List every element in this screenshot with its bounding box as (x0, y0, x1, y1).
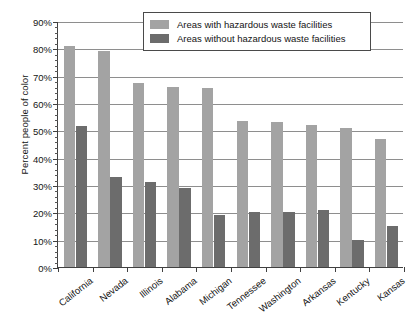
bar (76, 126, 88, 267)
bar (133, 83, 145, 268)
x-axis-label: Arkansas (299, 275, 337, 308)
y-tick-label: 20% (33, 208, 52, 219)
bar (64, 46, 76, 267)
x-tick-mark (404, 267, 405, 272)
bar (283, 212, 295, 267)
bar (145, 182, 157, 267)
bar (352, 240, 364, 267)
x-axis-label: Kansas (375, 275, 407, 303)
bar-chart: Percent people of color 0%10%20%30%40%50… (0, 0, 411, 328)
y-tick-label: 0% (38, 263, 52, 274)
bar (249, 212, 261, 267)
x-axis-label: Nevada (97, 275, 130, 304)
bar (306, 125, 318, 267)
chart-legend: Areas with hazardous waste facilities Ar… (143, 12, 371, 51)
legend-swatch-without-facilities (150, 34, 169, 43)
y-tick-label: 40% (33, 153, 52, 164)
bar (375, 139, 387, 267)
x-tick-mark (231, 267, 232, 272)
plot-area: 0%10%20%30%40%50%60%70%80%90% California… (57, 22, 403, 268)
x-tick-mark (266, 267, 267, 272)
bar (98, 51, 110, 267)
y-axis-title: Percent people of color (19, 50, 30, 200)
legend-label-with-facilities: Areas with hazardous waste facilities (177, 19, 332, 30)
y-tick-label: 10% (33, 235, 52, 246)
bar (167, 87, 179, 267)
x-tick-mark (127, 267, 128, 272)
bar (387, 226, 399, 267)
x-tick-mark (58, 267, 59, 272)
y-tick-label: 60% (33, 99, 52, 110)
legend-item: Areas without hazardous waste facilities (150, 31, 364, 45)
x-tick-mark (335, 267, 336, 272)
x-axis-label: Illinois (137, 275, 165, 300)
bar (340, 128, 352, 267)
y-tick-label: 90% (33, 17, 52, 28)
legend-item: Areas with hazardous waste facilities (150, 17, 364, 31)
bar (318, 210, 330, 267)
bar (237, 121, 249, 267)
x-tick-mark (196, 267, 197, 272)
x-tick-mark (162, 267, 163, 272)
x-tick-mark (300, 267, 301, 272)
bar (271, 122, 283, 267)
x-axis-label: Alabama (163, 275, 199, 307)
y-tick-label: 80% (33, 44, 52, 55)
bars-layer (58, 22, 403, 267)
bar (110, 177, 122, 267)
x-axis-label: California (57, 275, 95, 308)
legend-label-without-facilities: Areas without hazardous waste facilities (177, 33, 345, 44)
bar (179, 188, 191, 267)
x-tick-mark (93, 267, 94, 272)
y-tick-label: 70% (33, 71, 52, 82)
y-tick-label: 50% (33, 126, 52, 137)
legend-swatch-with-facilities (150, 20, 169, 29)
bar (202, 88, 214, 267)
y-tick-label: 30% (33, 181, 52, 192)
x-axis-label: Kentucky (334, 275, 372, 308)
bar (214, 215, 226, 267)
x-tick-mark (369, 267, 370, 272)
